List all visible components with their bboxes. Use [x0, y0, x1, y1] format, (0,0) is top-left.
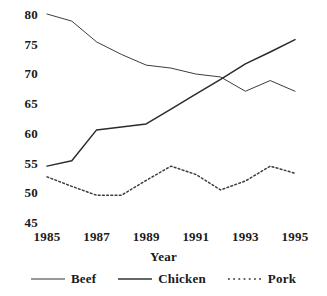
chart-legend: BeefChickenPork [0, 272, 327, 285]
legend-label: Chicken [158, 272, 206, 285]
legend-label: Beef [71, 272, 96, 285]
legend-item-pork[interactable]: Pork [228, 272, 296, 285]
x-axis-tick-label: 1995 [282, 230, 309, 243]
legend-swatch-beef-icon [31, 274, 65, 284]
x-axis-tick-label: 1985 [34, 230, 61, 243]
x-axis-tick-label: 1987 [83, 230, 110, 243]
x-axis-tick-label: 1989 [133, 230, 160, 243]
series-line-chicken [47, 40, 295, 167]
legend-swatch-pork-icon [228, 274, 262, 284]
legend-item-beef[interactable]: Beef [31, 272, 96, 285]
x-axis-title: Year [0, 249, 327, 265]
x-axis-labels: 198519871989199119931995 [0, 230, 327, 248]
series-line-pork [47, 166, 295, 195]
line-chart: 4550556065707580 19851987198919911993199… [0, 0, 327, 296]
legend-swatch-chicken-icon [118, 274, 152, 284]
x-axis-tick-label: 1991 [182, 230, 209, 243]
x-axis-tick-label: 1993 [232, 230, 259, 243]
legend-item-chicken[interactable]: Chicken [118, 272, 206, 285]
legend-label: Pork [268, 272, 296, 285]
series-line-beef [47, 14, 295, 91]
